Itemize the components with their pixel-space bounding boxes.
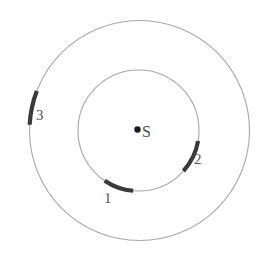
orbit-diagram: 1 2 3 S <box>0 0 279 259</box>
segment-label-1: 1 <box>104 191 112 206</box>
orbit-diagram-canvas <box>0 0 279 259</box>
segment-label-3: 3 <box>36 108 44 123</box>
central-body-label: S <box>142 124 151 140</box>
segment-label-2: 2 <box>194 152 202 167</box>
central-body-dot <box>134 126 140 132</box>
